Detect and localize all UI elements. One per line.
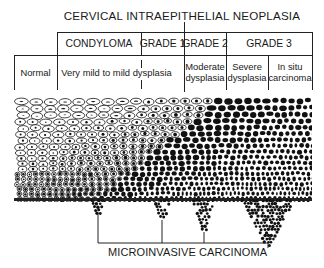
invasive-foci [91, 198, 292, 247]
microinvasive-bracket [98, 214, 268, 248]
epithelium-cells [14, 98, 321, 207]
microinvasive-carcinoma-label: MICROINVASIVE CARCINOMA [108, 246, 267, 258]
epithelium-illustration [0, 0, 324, 268]
